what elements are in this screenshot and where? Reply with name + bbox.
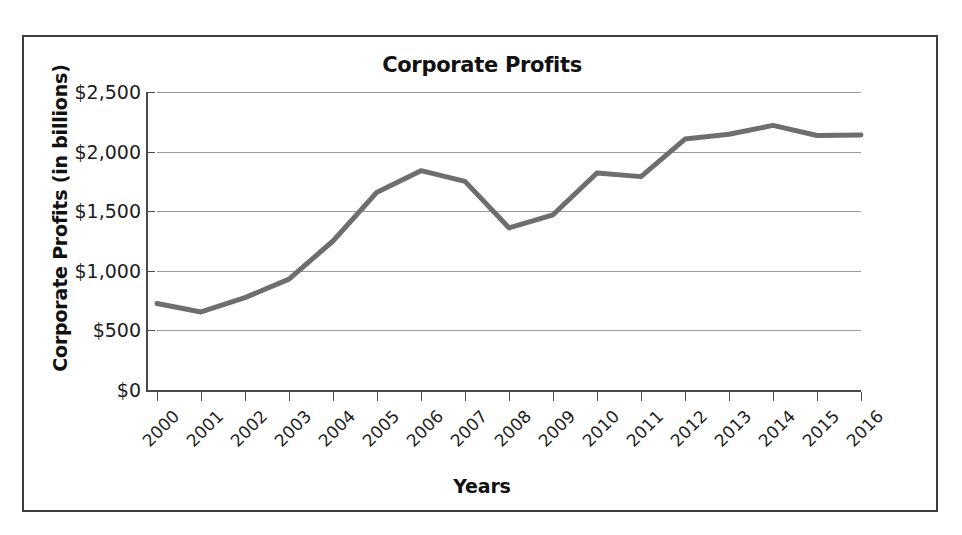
x-axis-tick bbox=[729, 392, 730, 401]
x-axis-tick-label: 2015 bbox=[798, 406, 843, 451]
x-axis-tick bbox=[861, 392, 862, 401]
y-axis-tick-label: $1,000 bbox=[75, 260, 141, 282]
x-axis-tick bbox=[333, 392, 334, 401]
x-axis-tick bbox=[509, 392, 510, 401]
x-axis-tick bbox=[377, 392, 378, 401]
x-axis-tick-label: 2011 bbox=[622, 406, 667, 451]
x-axis-tick-label: 2009 bbox=[534, 406, 579, 451]
x-axis-tick bbox=[685, 392, 686, 401]
y-axis-tick-label: $0 bbox=[117, 379, 141, 401]
y-axis-tick-label: $2,000 bbox=[75, 141, 141, 163]
x-axis-line bbox=[146, 390, 861, 392]
x-axis-tick-label: 2005 bbox=[358, 406, 403, 451]
x-axis-tick bbox=[245, 392, 246, 401]
y-axis-tick-label: $500 bbox=[93, 319, 141, 341]
x-axis-tick bbox=[201, 392, 202, 401]
x-axis-tick bbox=[817, 392, 818, 401]
x-axis-title: Years bbox=[24, 475, 940, 497]
x-axis-tick-label: 2013 bbox=[710, 406, 755, 451]
x-axis-tick-label: 2000 bbox=[138, 406, 183, 451]
chart-frame: Corporate Profits Corporate Profits (in … bbox=[22, 35, 938, 512]
x-axis-tick bbox=[157, 392, 158, 401]
x-axis-tick-label: 2016 bbox=[842, 406, 887, 451]
x-axis-tick-label: 2002 bbox=[226, 406, 271, 451]
x-axis-tick-label: 2014 bbox=[754, 406, 799, 451]
plot-area: $0$500$1,000$1,500$2,000$2,500 200020012… bbox=[157, 92, 861, 390]
x-axis-tick-label: 2008 bbox=[490, 406, 535, 451]
y-axis-tick-label: $2,500 bbox=[75, 81, 141, 103]
chart-page: Corporate Profits Corporate Profits (in … bbox=[0, 0, 962, 535]
x-axis-tick-label: 2007 bbox=[446, 406, 491, 451]
x-axis-tick-label: 2012 bbox=[666, 406, 711, 451]
chart-title: Corporate Profits bbox=[24, 53, 940, 77]
x-axis-tick bbox=[597, 392, 598, 401]
series-line-corporate-profits bbox=[157, 92, 861, 390]
x-axis-tick bbox=[289, 392, 290, 401]
x-axis-tick bbox=[773, 392, 774, 401]
x-axis-tick-label: 2006 bbox=[402, 406, 447, 451]
x-axis-tick bbox=[553, 392, 554, 401]
y-axis-title: Corporate Profits (in billions) bbox=[49, 58, 71, 378]
x-axis-tick bbox=[421, 392, 422, 401]
y-axis-line bbox=[146, 92, 148, 390]
x-axis-tick-label: 2001 bbox=[182, 406, 227, 451]
x-axis-tick-label: 2004 bbox=[314, 406, 359, 451]
x-axis-tick-label: 2003 bbox=[270, 406, 315, 451]
x-axis-tick bbox=[465, 392, 466, 401]
series-polyline bbox=[157, 125, 861, 312]
x-axis-tick-label: 2010 bbox=[578, 406, 623, 451]
x-axis-tick bbox=[641, 392, 642, 401]
y-axis-tick-label: $1,500 bbox=[75, 200, 141, 222]
